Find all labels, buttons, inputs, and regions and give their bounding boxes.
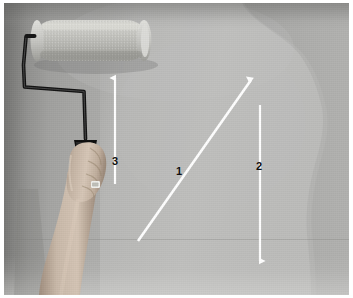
annotation-arrows (4, 3, 349, 295)
arrow-1-line (138, 80, 251, 241)
photograph: 1 2 3 (4, 3, 349, 295)
arrow-1-label: 1 (176, 166, 182, 177)
arrow-3-label: 3 (112, 156, 118, 167)
arrow-2-label: 2 (256, 161, 262, 172)
paint-roller-figure: 1 2 3 (0, 0, 353, 298)
